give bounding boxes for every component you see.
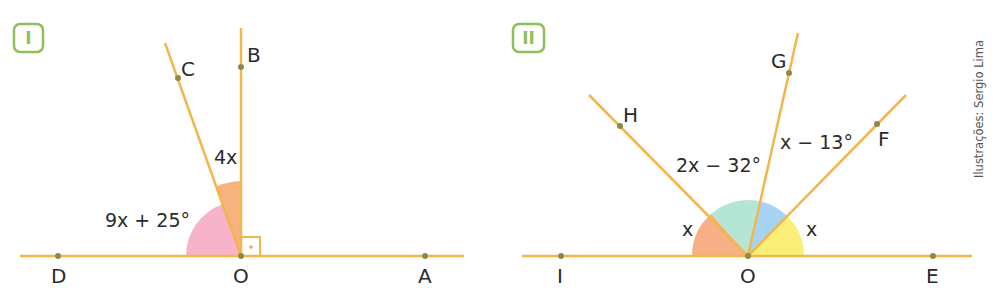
angle-label-x-minus-13: x − 13° — [780, 131, 853, 153]
figure-badge-I: I — [14, 24, 43, 52]
point-O-II — [745, 253, 751, 259]
right-angle-marker — [241, 237, 260, 256]
label-A: A — [418, 264, 432, 288]
point-G — [786, 70, 792, 76]
angle-diagrams: I D O A B C — [0, 0, 1002, 288]
angle-label-9x-plus-25: 9x + 25° — [105, 209, 190, 231]
badge-label-I: I — [25, 28, 31, 48]
illustration-credit: Ilustrações: Sergio Lima — [972, 40, 986, 178]
point-I — [558, 253, 564, 259]
point-A — [422, 253, 428, 259]
label-C: C — [181, 57, 195, 81]
label-H: H — [623, 103, 638, 127]
badge-label-II: II — [522, 28, 535, 48]
figure-badge-II: II — [513, 24, 544, 52]
angle-label-2x-minus-32: 2x − 32° — [676, 154, 761, 176]
label-O-II: O — [740, 264, 756, 288]
label-D: D — [51, 264, 66, 288]
label-G: G — [771, 49, 787, 73]
point-E — [930, 253, 936, 259]
point-D — [55, 253, 61, 259]
angle-label-4x: 4x — [214, 146, 237, 168]
label-F: F — [878, 127, 890, 151]
label-O-I: O — [233, 264, 249, 288]
point-O-I — [238, 253, 244, 259]
label-B: B — [247, 43, 261, 67]
label-I: I — [557, 264, 563, 288]
angle-label-x-left: x — [682, 218, 693, 240]
point-B — [238, 64, 244, 70]
label-E: E — [926, 264, 939, 288]
figure-I: I D O A B C — [14, 24, 464, 288]
angle-label-x-right: x — [806, 218, 817, 240]
ray-OF — [748, 95, 906, 256]
figure-II: II I O E H G F — [513, 24, 972, 288]
